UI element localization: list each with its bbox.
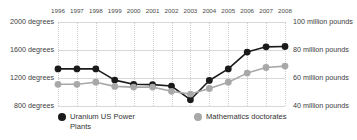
data-point (282, 43, 289, 50)
data-point (55, 66, 62, 73)
chart-legend: Uranium US Power PlantsMathematics docto… (58, 112, 348, 131)
gridline-horizontal (58, 106, 285, 107)
data-point (206, 77, 213, 84)
data-point (244, 49, 251, 56)
left-axis-tick-1200: 1200 degrees (0, 74, 54, 82)
x-axis-tick-2006: 2006 (240, 7, 254, 14)
data-point (74, 81, 81, 88)
x-axis-tick-2001: 2001 (146, 7, 160, 14)
legend-item-label: Mathematics doctorates (206, 112, 287, 122)
series-canvas (58, 22, 285, 106)
x-axis-tick-2004: 2004 (202, 7, 216, 14)
data-point (263, 43, 270, 50)
plot-area (58, 22, 285, 106)
legend-item-label: Uranium US Power Plants (70, 112, 135, 131)
data-point (206, 85, 213, 92)
x-axis-tick-2003: 2003 (184, 7, 198, 14)
data-point (225, 66, 232, 73)
filled-circle-icon (58, 113, 66, 121)
x-axis-tick-2007: 2007 (259, 7, 273, 14)
data-point (187, 91, 194, 98)
x-axis-tick-1998: 1998 (89, 7, 103, 14)
left-axis-tick-1600: 1600 degrees (0, 46, 54, 54)
x-axis-tick-2002: 2002 (165, 7, 179, 14)
data-point (168, 88, 175, 95)
data-point (92, 66, 99, 73)
data-point (130, 84, 137, 91)
right-axis-tick-80: 80 million pounds (293, 46, 349, 54)
data-point (244, 70, 251, 77)
data-point (263, 64, 270, 71)
data-point (111, 77, 118, 84)
right-axis-tick-40: 40 million pounds (293, 102, 349, 110)
x-axis-tick-2000: 2000 (127, 7, 141, 14)
x-axis-tick-2008: 2008 (278, 7, 292, 14)
left-axis-tick-800: 800 degrees (0, 102, 54, 110)
legend-item-mathematics-doctorates[interactable]: Mathematics doctorates (194, 112, 287, 122)
right-axis-tick-100: 100 million pounds (293, 18, 353, 26)
data-point (149, 84, 156, 91)
legend-item-uranium-us-power-plants[interactable]: Uranium US Power Plants (58, 112, 194, 131)
x-axis-tick-1997: 1997 (70, 7, 84, 14)
data-point (74, 66, 81, 73)
chart-container: 800 degrees1200 degrees1600 degrees2000 … (0, 0, 357, 140)
right-axis-tick-60: 60 million pounds (293, 74, 349, 82)
data-point (92, 79, 99, 86)
x-axis-tick-2005: 2005 (221, 7, 235, 14)
data-point (225, 79, 232, 86)
filled-circle-icon (194, 113, 202, 121)
x-axis-tick-1996: 1996 (51, 7, 65, 14)
x-axis-tick-1999: 1999 (108, 7, 122, 14)
data-point (55, 81, 62, 88)
left-axis-tick-2000: 2000 degrees (0, 18, 54, 26)
data-point (282, 63, 289, 70)
data-point (111, 83, 118, 90)
